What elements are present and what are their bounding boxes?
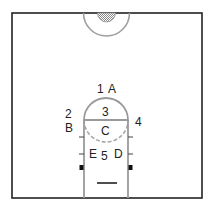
block-left <box>80 165 84 170</box>
label-pos-3: 3 <box>102 105 109 119</box>
label-pos-E: E <box>89 147 97 161</box>
label-pos-1: 1 <box>97 82 104 96</box>
label-pos-D: D <box>114 147 123 161</box>
label-pos-B: B <box>65 121 73 135</box>
label-pos-C: C <box>101 124 110 138</box>
label-pos-4: 4 <box>135 115 142 129</box>
block-right <box>129 165 133 170</box>
label-pos-A: A <box>108 82 116 96</box>
center-circle <box>84 13 130 36</box>
label-pos-5: 5 <box>101 149 108 163</box>
court-diagram: 1 A 3 2 B 4 C E 5 D <box>0 0 216 208</box>
label-pos-2: 2 <box>65 107 72 121</box>
